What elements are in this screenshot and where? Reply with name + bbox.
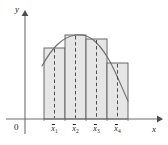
origin-label: 0 (14, 123, 19, 132)
riemann-sum-figure: y x 0 x1 x2 x3 x4 (0, 0, 168, 145)
y-axis-arrowhead (22, 10, 29, 16)
tick-label-midpoint-2: x2 (72, 125, 78, 133)
tick-label-midpoint-3: x3 (93, 125, 99, 133)
tick-label-midpoint-4: x4 (114, 125, 120, 133)
x-axis-arrowhead (157, 116, 163, 123)
x-axis-label: x (152, 125, 156, 134)
tick-label-midpoint-1: x1 (51, 125, 57, 133)
figure-canvas (0, 0, 168, 145)
rectangles-group (44, 35, 128, 119)
rectangle-bar-1 (44, 48, 65, 119)
y-axis-label: y (15, 5, 19, 14)
